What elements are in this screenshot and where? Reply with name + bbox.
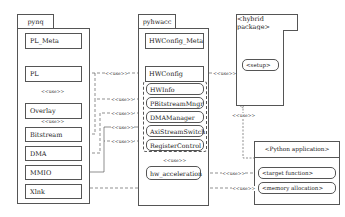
python-target-function[interactable]: <target function>	[258, 167, 336, 179]
pynq-package-tab: pynq	[17, 14, 54, 29]
component-dmamanager[interactable]: DMAManager	[146, 111, 204, 123]
component-pbitstreammngr[interactable]: PBitstreamMngr	[146, 97, 204, 109]
pyhwacc-package-tab: pyhwacc	[138, 14, 176, 29]
hybrid-setup[interactable]: <setup>	[242, 59, 279, 71]
class-bitstream[interactable]: Bitstream	[25, 127, 82, 142]
use-label: <<use>>	[163, 158, 186, 163]
class-pl[interactable]: PL	[25, 66, 82, 82]
use-label: <<use>>	[111, 97, 134, 102]
class-label: PL	[30, 70, 39, 78]
use-label: <<use>>	[222, 171, 245, 176]
class-label: Bitstream	[30, 131, 62, 139]
component-label: PBitstreamMngr	[150, 100, 203, 107]
class-pl-meta[interactable]: PL_Meta	[25, 33, 82, 49]
use-label: <<use>>	[232, 113, 255, 118]
component-label: DMAManager	[150, 114, 195, 121]
use-label: <<use>>	[41, 89, 64, 94]
hybrid-package-label: <hybrid package>	[237, 15, 297, 31]
component-label: hw_acceleration	[150, 170, 202, 177]
class-overlay[interactable]: Overlay	[25, 103, 82, 119]
class-xlnk[interactable]: Xlnk	[25, 184, 82, 199]
class-hwconfig[interactable]: HWConfig	[145, 66, 204, 82]
python-application-header: <Python application>	[254, 141, 340, 158]
class-mmio[interactable]: MMIO	[25, 165, 82, 180]
use-label: <<use>>	[111, 125, 134, 130]
use-label: <<use>>	[213, 71, 236, 76]
use-label: <<use>>	[111, 139, 134, 144]
class-label: HWConfig	[149, 70, 183, 78]
pynq-package-label: pynq	[27, 18, 43, 26]
target-function-label: <target function>	[262, 170, 313, 176]
class-label: Overlay	[30, 107, 56, 115]
use-label: <<use>>	[232, 186, 255, 191]
setup-label: <setup>	[246, 62, 271, 68]
component-label: HWInfo	[150, 86, 175, 93]
python-application-label: <Python application>	[265, 146, 330, 152]
pyhwacc-package-label: pyhwacc	[143, 18, 172, 26]
component-hw-acceleration[interactable]: hw_acceleration	[146, 166, 201, 180]
class-dma[interactable]: DMA	[25, 146, 82, 161]
class-label: HWConfig_Meta	[149, 37, 203, 45]
use-label: <<use>>	[111, 111, 134, 116]
use-label: <<use>>	[41, 119, 64, 124]
python-memory-allocation[interactable]: <memory allocation>	[258, 182, 336, 194]
class-hwconfig-meta[interactable]: HWConfig_Meta	[145, 33, 204, 49]
component-label: AxiStreamSwitch	[150, 128, 205, 135]
component-axistreamswitch[interactable]: AxiStreamSwitch	[146, 125, 204, 137]
class-label: MMIO	[30, 169, 51, 177]
component-label: RegisterControl	[150, 142, 201, 149]
memory-allocation-label: <memory allocation>	[262, 185, 323, 191]
component-registercontrol[interactable]: RegisterControl	[146, 139, 204, 151]
component-hwinfo[interactable]: HWInfo	[146, 83, 204, 95]
class-label: Xlnk	[30, 188, 45, 196]
hybrid-package-tab: <hybrid package>	[236, 14, 298, 31]
class-label: DMA	[30, 150, 47, 158]
use-label: <<use>>	[105, 71, 128, 76]
class-label: PL_Meta	[30, 37, 59, 45]
